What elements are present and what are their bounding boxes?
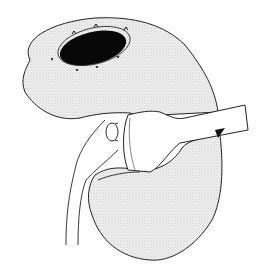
kidney-illustration (0, 0, 257, 274)
illustration-canvas (0, 0, 257, 274)
upper-kidney-lobe (23, 18, 218, 119)
pelvis-stitch (106, 123, 118, 141)
